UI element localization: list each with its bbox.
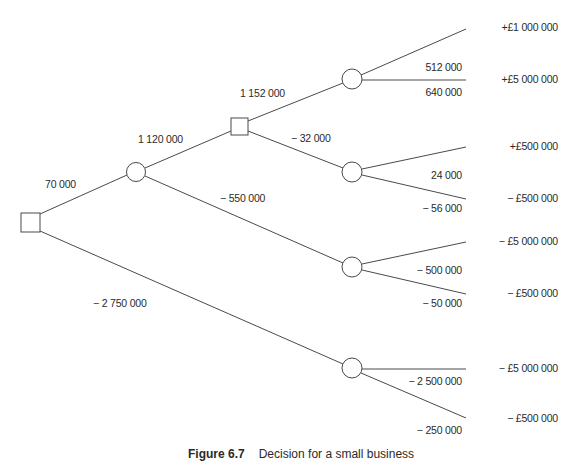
figure-title: Decision for a small business <box>259 447 414 461</box>
branch-value-c1-c4: − 550 000 <box>220 192 265 204</box>
branch-value-c4-upper: − 500 000 <box>417 264 462 276</box>
edge-c3-upper <box>362 147 466 169</box>
outcome-2: +£5 000 000 <box>502 73 558 85</box>
chance-node-4 <box>342 257 362 277</box>
chance-node-1 <box>127 163 146 182</box>
outcome-8: − £500 000 <box>507 412 558 424</box>
chance-node-3 <box>342 162 362 182</box>
branch-value-d2-c2: 1 152 000 <box>240 87 285 99</box>
branch-value-c2-lower: 640 000 <box>425 86 462 98</box>
chance-node-5 <box>342 358 362 378</box>
branch-value-c3-lower: − 56 000 <box>422 202 462 214</box>
decision-node-1 <box>21 213 40 232</box>
outcome-3: +£500 000 <box>510 140 558 152</box>
branch-value-d1-c5: − 2 750 000 <box>93 297 147 309</box>
edge-c1-c4 <box>145 176 343 263</box>
figure-number: Figure 6.7 <box>188 447 245 461</box>
edge-c4-upper <box>362 242 466 264</box>
branch-value-c2-upper: 512 000 <box>425 61 462 73</box>
outcome-7: − £5 000 000 <box>499 362 558 374</box>
outcome-6: − £500 000 <box>507 287 558 299</box>
chance-node-2 <box>342 69 362 89</box>
decision-node-2 <box>231 118 248 135</box>
figure-caption: Figure 6.7Decision for a small business <box>188 447 414 461</box>
branch-value-c5-upper: − 2 500 000 <box>408 375 462 387</box>
outcome-4: − £500 000 <box>507 192 558 204</box>
outcome-5: − £5 000 000 <box>499 235 558 247</box>
branch-value-c5-lower: − 250 000 <box>417 424 462 436</box>
branch-value-d1-c1: 70 000 <box>45 178 76 190</box>
branch-value-c4-lower: − 50 000 <box>422 297 462 309</box>
outcome-1: +£1 000 000 <box>502 21 558 33</box>
edge-d1-c5 <box>40 231 343 364</box>
branch-value-d2-c3: − 32 000 <box>291 132 331 144</box>
branch-value-c1-d2: 1 120 000 <box>138 133 183 145</box>
branch-value-c3-upper: 24 000 <box>431 169 462 181</box>
